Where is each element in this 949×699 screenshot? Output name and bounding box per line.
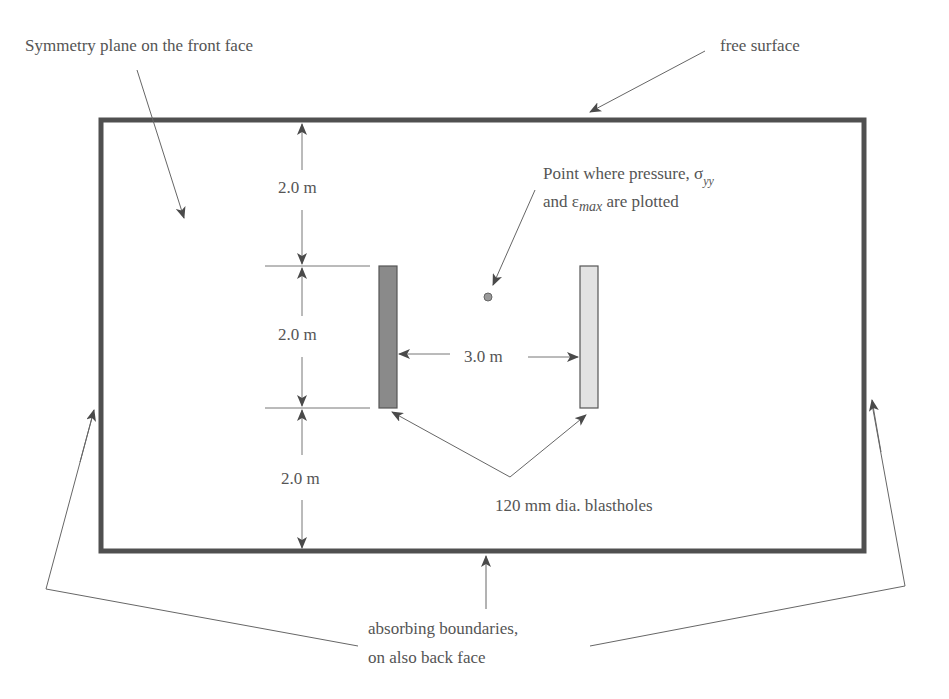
blastholes-label: 120 mm dia. blastholes xyxy=(495,496,653,515)
dimension-label-spacing: 3.0 m xyxy=(464,347,503,366)
monitoring-point-label-line2: and εmax are plotted xyxy=(543,192,679,214)
monitoring-point xyxy=(484,293,492,301)
blasthole-right xyxy=(580,266,598,408)
blasthole-leader-arrow-left xyxy=(392,412,510,477)
blast-model-diagram: 2.0 m 2.0 m 2.0 m 3.0 m Point where pres… xyxy=(0,0,949,699)
free-surface-label: free surface xyxy=(720,36,800,55)
model-boundary-frame xyxy=(101,120,864,551)
symmetry-plane-label: Symmetry plane on the front face xyxy=(25,36,253,55)
dimension-label-top: 2.0 m xyxy=(278,178,317,197)
symmetry-plane-leader-arrow xyxy=(137,70,184,218)
absorbing-leader-right-arrow xyxy=(872,400,881,452)
monitoring-point-leader-arrow xyxy=(493,190,535,285)
free-surface-leader-arrow xyxy=(590,51,705,112)
dimension-label-middle: 2.0 m xyxy=(278,325,317,344)
absorbing-leader-left xyxy=(46,414,358,646)
blasthole-left xyxy=(379,266,397,408)
absorbing-boundaries-label-line1: absorbing boundaries, xyxy=(368,619,518,638)
absorbing-leader-right xyxy=(590,404,905,646)
blasthole-leader-arrow-right xyxy=(510,415,586,477)
absorbing-leader-left-arrow xyxy=(80,410,94,462)
absorbing-boundaries-label-line2: on also back face xyxy=(368,648,486,667)
dimension-label-bottom: 2.0 m xyxy=(281,469,320,488)
monitoring-point-label-line1: Point where pressure, σyy xyxy=(543,164,715,188)
